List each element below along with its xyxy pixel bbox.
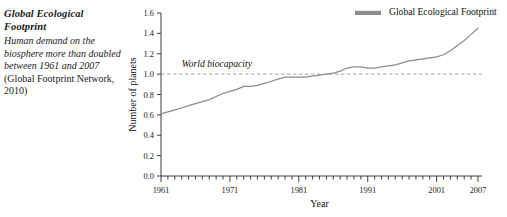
legend-swatch xyxy=(355,11,381,15)
legend-label: Global Ecological Footprint xyxy=(389,6,497,17)
y-tick-label: 0.2 xyxy=(144,152,154,161)
x-tick-label: 1981 xyxy=(290,186,307,195)
x-tick-label: 2001 xyxy=(428,186,445,195)
caption-body-italic: Human demand on the biosphere more than … xyxy=(4,35,121,71)
chart-annotations: World biocapacity xyxy=(182,58,253,69)
y-tick-label: 0.0 xyxy=(144,172,154,181)
line-chart: 0.00.20.40.60.81.01.21.41.6 196119711981… xyxy=(126,0,507,217)
x-tick-label: 1961 xyxy=(153,186,170,195)
x-tick-label: 1991 xyxy=(359,186,376,195)
y-axis: 0.00.20.40.60.81.01.21.41.6 xyxy=(144,9,161,181)
x-axis-title: Year xyxy=(310,198,329,209)
y-axis-title: Number of planets xyxy=(127,57,138,132)
figure-caption: Global Ecological Footprint Human demand… xyxy=(4,8,126,98)
y-tick-label: 0.4 xyxy=(144,131,155,140)
figure: Global Ecological Footprint Human demand… xyxy=(0,0,507,217)
y-tick-label: 1.4 xyxy=(144,29,155,38)
y-tick-label: 0.8 xyxy=(144,91,154,100)
caption-body-source: (Global Footprint Network, 2010) xyxy=(4,73,114,97)
y-tick-label: 1.6 xyxy=(144,9,154,18)
x-tick-label: 2007 xyxy=(470,186,487,195)
series-polyline xyxy=(161,28,478,114)
caption-title: Global Ecological Footprint xyxy=(4,8,126,33)
chart-plot-area: 0.00.20.40.60.81.01.21.41.6 196119711981… xyxy=(126,0,507,217)
caption-body: Human demand on the biosphere more than … xyxy=(4,35,126,98)
y-tick-label: 0.6 xyxy=(144,111,154,120)
footprint-series-line xyxy=(161,28,478,114)
annotation-label: World biocapacity xyxy=(182,58,253,69)
y-tick-label: 1.2 xyxy=(144,50,154,59)
chart-legend: Global Ecological Footprint xyxy=(355,6,497,17)
x-tick-label: 1971 xyxy=(222,186,239,195)
y-tick-label: 1.0 xyxy=(144,70,154,79)
x-axis: 196119711981199120012007 xyxy=(153,176,487,195)
